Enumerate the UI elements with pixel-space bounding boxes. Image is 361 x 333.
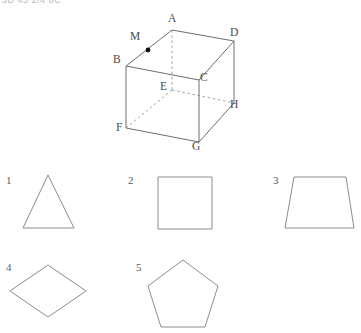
shapes-and-labels-layer: ADMBCEHFG 12345 [0, 0, 361, 333]
vertex-label-e: E [160, 80, 167, 92]
shape-2-square[interactable] [158, 177, 212, 229]
shape-number-1: 1 [6, 174, 12, 186]
shape-3-trapezoid[interactable] [285, 177, 354, 228]
vertex-label-f: F [116, 121, 122, 133]
answer-shapes-group: 12345 [6, 174, 354, 327]
shape-5-pentagon[interactable] [148, 260, 218, 327]
shape-number-3: 3 [273, 174, 279, 186]
vertex-label-g: G [192, 140, 200, 152]
vertex-label-b: B [113, 53, 121, 65]
shape-4-rhombus[interactable] [10, 265, 86, 317]
vertex-label-a: A [168, 12, 177, 24]
shape-number-2: 2 [128, 174, 134, 186]
vertex-label-c: C [200, 71, 208, 83]
vertex-label-d: D [230, 26, 238, 38]
shape-number-4: 4 [6, 261, 12, 273]
vertex-label-m: M [130, 30, 140, 42]
shape-number-5: 5 [136, 261, 142, 273]
cube-vertex-labels: ADMBCEHFG [113, 12, 238, 152]
vertex-label-h: H [230, 98, 238, 110]
shape-1-triangle[interactable] [23, 175, 74, 228]
